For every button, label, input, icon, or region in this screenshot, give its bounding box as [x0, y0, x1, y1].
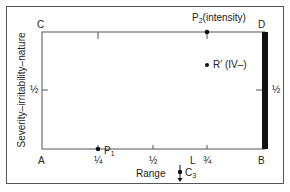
- x-tick-label-half: ½: [149, 156, 157, 166]
- p2-letter: P: [192, 12, 199, 23]
- c3-arrow-down-icon: [178, 178, 183, 182]
- c3-label: C3: [185, 168, 196, 181]
- corner-label-a: A: [38, 156, 45, 166]
- point-r-prime: [205, 63, 209, 67]
- marker-l: L: [190, 156, 196, 166]
- point-p1: [96, 147, 101, 152]
- point-p2: [205, 30, 210, 35]
- x-tick-label-three-quarter: ¾: [203, 156, 211, 166]
- thick-bar-BD: [262, 32, 268, 149]
- p2-suffix: (intensity): [203, 12, 246, 23]
- p1-letter: P: [104, 145, 111, 156]
- c3-subscript: 3: [192, 172, 196, 179]
- p1-subscript: 1: [111, 150, 115, 157]
- corner-label-c: C: [37, 20, 44, 30]
- y-axis-label: Severity–irritability–nature: [16, 32, 27, 147]
- x-tick-label-quarter: ¼: [94, 156, 102, 166]
- r-prime-label: R′ (IV–): [213, 60, 247, 70]
- p2-label: P2(intensity): [192, 13, 246, 26]
- range-severity-box: [42, 32, 265, 149]
- y-tick-label-left-half: ½: [30, 85, 38, 95]
- corner-label-d: D: [258, 20, 265, 30]
- corner-label-b: B: [258, 156, 265, 166]
- y-tick-label-right-half: ½: [272, 85, 280, 95]
- p1-label: P1: [104, 146, 115, 159]
- x-axis-label: Range: [136, 169, 165, 179]
